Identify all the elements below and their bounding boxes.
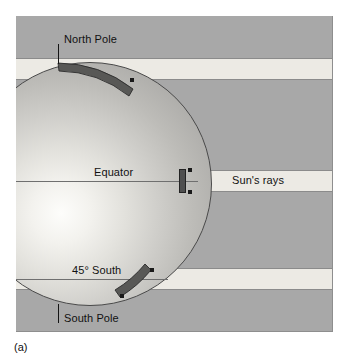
solar-illumination-figure: North Pole Equator 45° South South Pole … bbox=[0, 0, 348, 364]
arrow-marker-south-ray-top bbox=[150, 268, 154, 272]
latitude-45-south-label: 45° South bbox=[72, 264, 121, 276]
south-pole-label: South Pole bbox=[64, 312, 119, 324]
south-pole-tick bbox=[58, 304, 59, 323]
equator-label: Equator bbox=[94, 166, 133, 178]
north-pole-tick bbox=[58, 44, 59, 64]
diagram-panel: North Pole Equator 45° South South Pole … bbox=[16, 16, 333, 332]
arrow-marker-equator-bottom bbox=[188, 190, 192, 194]
equator-line bbox=[16, 181, 198, 182]
suns-rays-label: Sun's rays bbox=[232, 174, 284, 186]
latitude-45-south-line bbox=[16, 279, 168, 280]
north-pole-label: North Pole bbox=[64, 33, 117, 45]
arrow-marker-equator-top bbox=[188, 168, 192, 172]
arrow-marker-north-ray bbox=[130, 78, 134, 82]
arrow-marker-south-ray-bottom bbox=[120, 294, 124, 298]
equator-beam-bar bbox=[179, 169, 186, 193]
figure-caption: (a) bbox=[14, 341, 27, 353]
